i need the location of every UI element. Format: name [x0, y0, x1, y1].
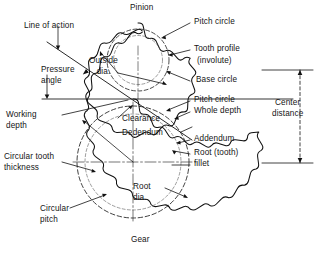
tooth-profile-sub-label: (involute): [197, 56, 232, 67]
working-depth-label: Working depth: [6, 110, 37, 131]
pitch-circle-lower-label: Pitch circle: [194, 95, 235, 106]
pitch-circle-top-label: Pitch circle: [194, 17, 235, 28]
center-distance-label: Center distance: [272, 98, 303, 119]
outside-dia-label: Outside dia.: [89, 56, 118, 77]
addendum-label: Addendum: [194, 134, 234, 145]
circular-pitch-label: Circular pitch: [40, 204, 69, 225]
line-of-action-leader-arrow: [56, 46, 60, 50]
base-circle-label: Base circle: [196, 75, 237, 86]
root-dia-label: Root dia.: [133, 182, 151, 203]
clearance-label: Clearance: [122, 114, 160, 125]
root-tooth-label: Root (tooth): [194, 148, 238, 159]
fillet-label: fillet: [194, 159, 209, 170]
line-of-action-line: [47, 42, 192, 140]
circular-tooth-thickness-label: Circular tooth thickness: [4, 152, 54, 173]
dedendum-label: Dedendum: [122, 128, 163, 139]
gear-label: Gear: [131, 235, 150, 246]
pressure-angle-arrowhead: [45, 94, 50, 99]
tooth-profile-label: Tooth profile: [194, 44, 240, 55]
whole-depth-label: Whole depth: [194, 106, 241, 117]
gear-terminology-diagram: Pinion Gear Line of action Pressure angl…: [0, 0, 320, 253]
leader-lines-right: [161, 23, 190, 165]
pinion-label: Pinion: [130, 3, 153, 14]
pressure-angle-label: Pressure angle: [41, 65, 75, 86]
line-of-action-label: Line of action: [24, 21, 74, 32]
